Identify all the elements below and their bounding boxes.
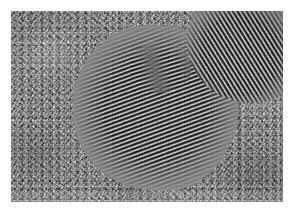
figure-alt-text: High-resolution transmission electron mi…: [0, 0, 1, 1]
figure-caption: [0, 0, 1, 1]
grain-edge-fade-upper-right: [187, 11, 283, 103]
crystalline-grain-upper-right: [187, 11, 283, 103]
figure-root: High-resolution transmission electron mi…: [0, 0, 293, 214]
micrograph-plate: [11, 11, 283, 202]
